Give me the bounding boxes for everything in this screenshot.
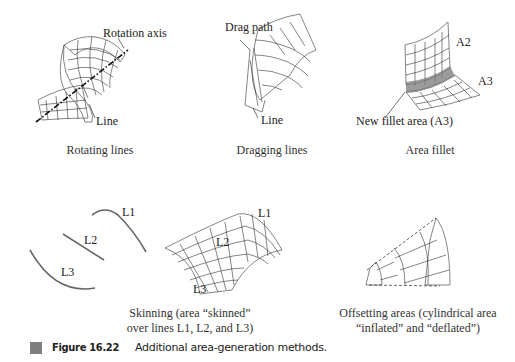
area-fillet-caption: Area fillet (380, 143, 480, 158)
skin-curves (30, 210, 146, 289)
drag-path-pointer (240, 40, 250, 50)
offsetting-caption-line2: “inflated” and “deflated”) (318, 321, 515, 336)
skinning-caption-line2: over lines L1, L2, and L3) (90, 321, 290, 336)
dragging-lines-caption: Dragging lines (222, 143, 322, 158)
a2-label: A2 (456, 35, 471, 50)
rotated-surface (38, 36, 125, 122)
curve-l1-label: L1 (122, 205, 135, 220)
fillet-highlight (406, 66, 455, 93)
skinning-caption: Skinning (area “skinned” over lines L1, … (90, 306, 290, 336)
surface-l1-label: L1 (258, 206, 271, 221)
offset-surfaces (366, 218, 450, 285)
rotation-axis-line (36, 50, 128, 122)
skinning-caption-line1: Skinning (area “skinned” (90, 306, 290, 321)
surface-l2-label: L2 (216, 235, 229, 250)
dragging-line-label: Line (261, 113, 283, 128)
figure-number: Figure 16.22 (52, 341, 119, 354)
surface-l3-label: L3 (193, 282, 206, 297)
rotating-lines-caption: Rotating lines (50, 143, 150, 158)
drag-path-label: Drag path (225, 20, 273, 35)
figure-title: Additional area-generation methods. (135, 341, 327, 354)
curve-l3-label: L3 (61, 265, 74, 280)
rotation-axis-label: Rotation axis (103, 26, 167, 41)
offsetting-caption: Offsetting areas (cylindrical area “infl… (318, 306, 515, 336)
offsetting-caption-line1: Offsetting areas (cylindrical area (318, 306, 515, 321)
line-pointer-1 (89, 104, 95, 118)
curve-l2-label: L2 (84, 233, 97, 248)
rotating-line-label: Line (96, 114, 118, 129)
curve-l1 (92, 210, 146, 252)
new-fillet-area-label: New fillet area (A3) (356, 114, 453, 129)
figure-caption: Figure 16.22 Additional area-generation … (30, 341, 327, 354)
a3-label: A3 (478, 74, 493, 89)
caption-marker-icon (30, 342, 42, 354)
skinned-surface (165, 214, 282, 294)
